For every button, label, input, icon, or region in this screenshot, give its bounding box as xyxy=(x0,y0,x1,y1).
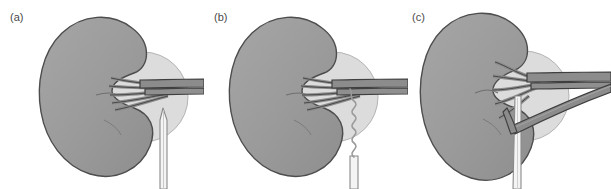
panel-c-illustration xyxy=(407,0,611,189)
panel-c: (c) xyxy=(407,0,611,189)
panel-a: (a) xyxy=(0,0,204,189)
renal-artery-trunk xyxy=(332,79,408,88)
panel-a-illustration xyxy=(0,0,204,189)
renal-vein-trunk xyxy=(145,88,204,95)
cannulating-catheter xyxy=(513,96,521,189)
renal-artery-trunk xyxy=(527,72,611,82)
figure-container: (a) xyxy=(0,0,611,189)
renal-vein-trunk xyxy=(337,88,408,95)
renal-artery-trunk xyxy=(140,79,204,88)
panel-b: (b) xyxy=(204,0,408,189)
straight-needle xyxy=(160,108,167,189)
panel-b-illustration xyxy=(204,0,408,189)
